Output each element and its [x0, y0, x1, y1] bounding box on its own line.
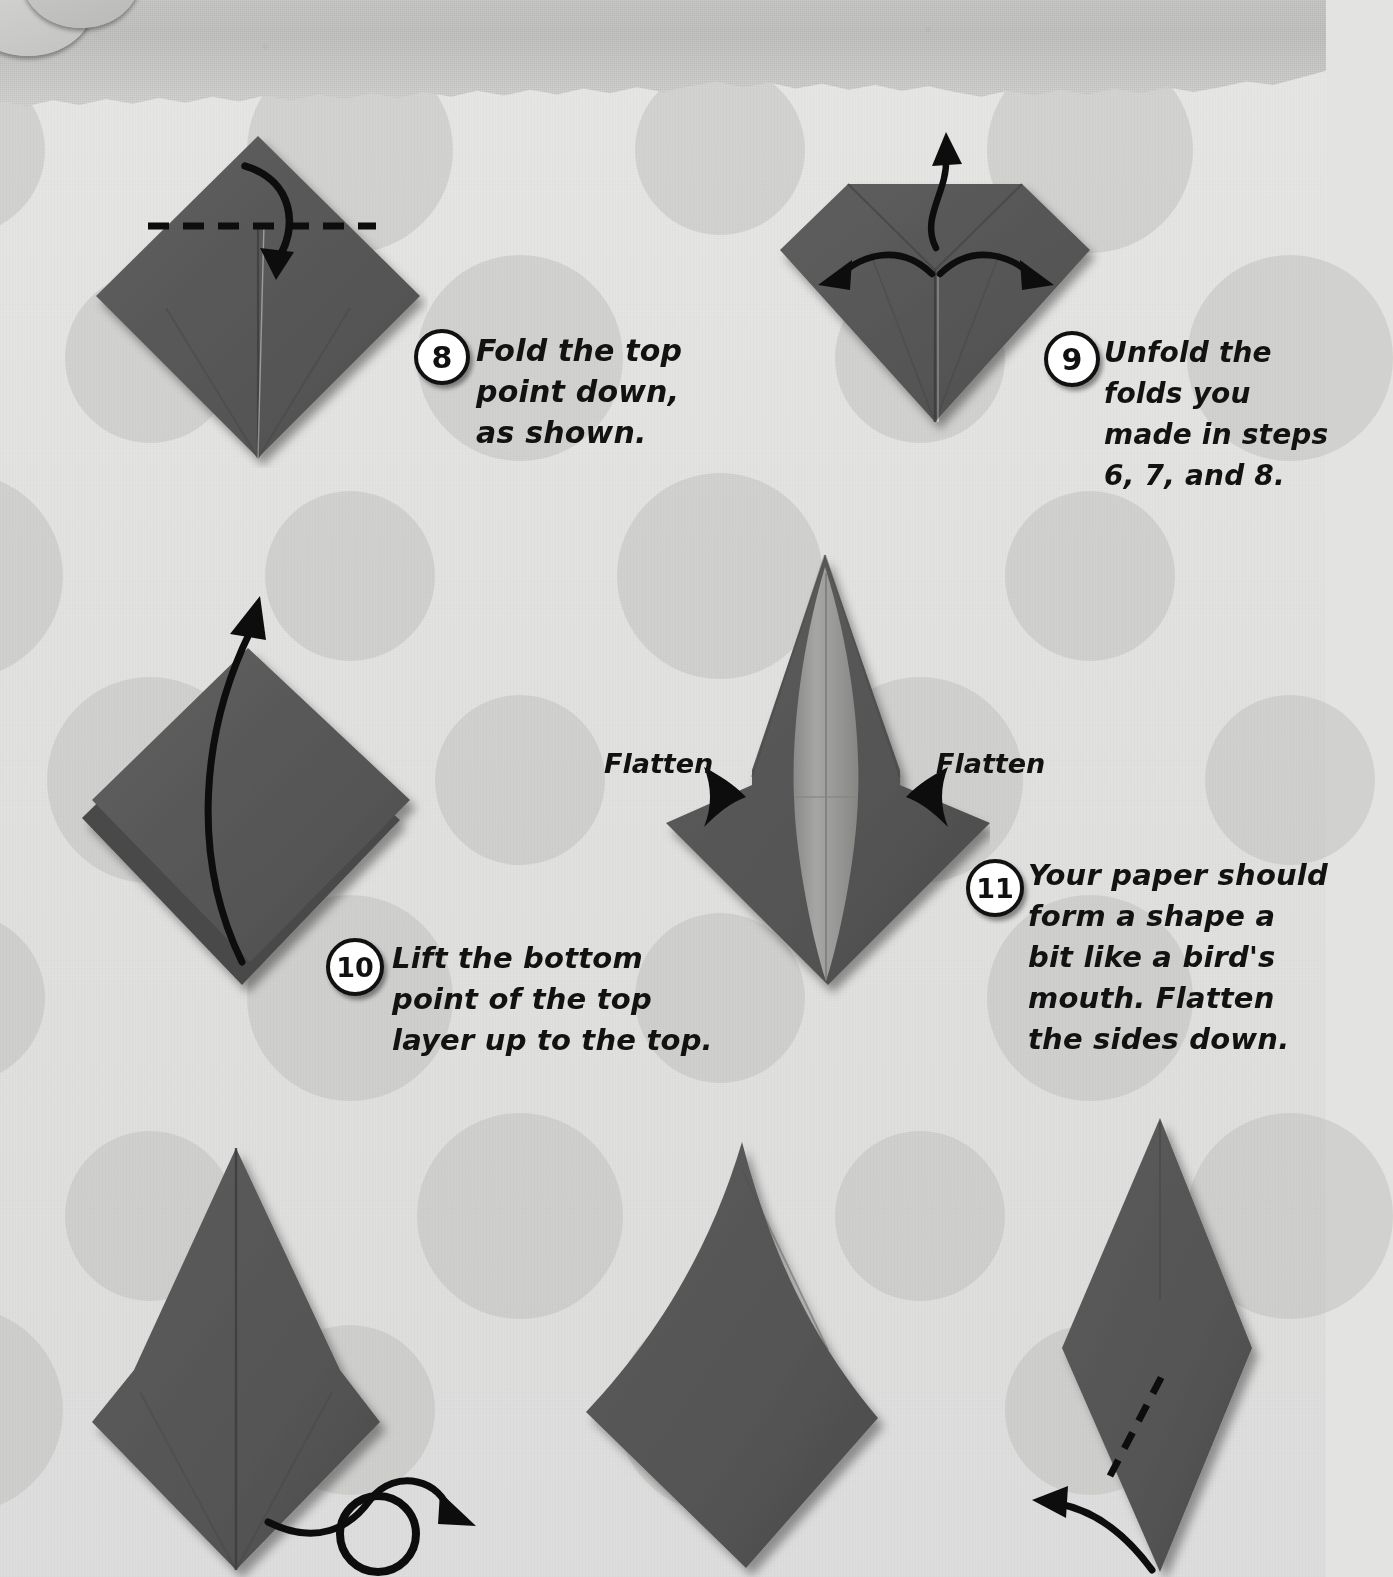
caption-step-10: Lift the bottom point of the top layer u…	[392, 938, 713, 1061]
step-badge-9-number: 9	[1062, 342, 1083, 377]
flatten-label-left: Flatten	[604, 748, 713, 779]
caption-line: mouth. Flatten	[1028, 978, 1328, 1019]
caption-line: Fold the top	[476, 330, 682, 371]
caption-line: 6, 7, and 8.	[1104, 455, 1328, 496]
figure-bottom-left	[40, 1100, 480, 1577]
step-badge-11-number: 11	[976, 873, 1014, 904]
figure-step-9	[760, 122, 1110, 452]
narrow-diamond-silhouette	[1062, 1118, 1252, 1572]
step-badge-11: 11	[966, 859, 1024, 917]
caption-line: Your paper should	[1028, 855, 1328, 896]
plain-kite-silhouette	[586, 1142, 878, 1568]
step-badge-8: 8	[414, 329, 470, 385]
caption-step-9: Unfold the folds you made in steps 6, 7,…	[1104, 332, 1328, 496]
step-badge-10-number: 10	[336, 952, 374, 983]
caption-line: bit like a bird's	[1028, 937, 1328, 978]
flatten-label-right: Flatten	[936, 748, 1045, 779]
figure-step-8	[88, 128, 428, 468]
caption-line: point of the top	[392, 979, 713, 1020]
caption-line: layer up to the top.	[392, 1020, 713, 1061]
caption-line: form a shape a	[1028, 896, 1328, 937]
caption-line: point down,	[476, 371, 682, 412]
figure-bottom-right	[980, 1100, 1326, 1577]
step-badge-8-number: 8	[432, 340, 453, 375]
caption-line: made in steps	[1104, 414, 1328, 455]
caption-step-8: Fold the top point down, as shown.	[476, 330, 682, 453]
step-badge-10: 10	[326, 938, 384, 996]
caption-line: as shown.	[476, 412, 682, 453]
caption-line: folds you	[1104, 373, 1328, 414]
caption-line: the sides down.	[1028, 1019, 1328, 1060]
caption-line: Lift the bottom	[392, 938, 713, 979]
caption-step-11: Your paper should form a shape a bit lik…	[1028, 855, 1328, 1060]
figure-bottom-center	[560, 1100, 940, 1577]
caption-line: Unfold the	[1104, 332, 1328, 373]
top-layer	[92, 648, 410, 962]
figure-step-10	[70, 500, 430, 1000]
step-badge-9: 9	[1044, 331, 1100, 387]
